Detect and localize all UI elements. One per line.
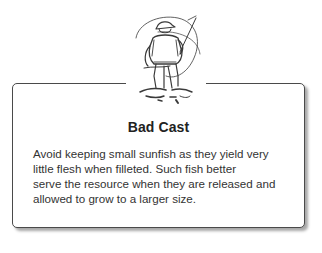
sidebar-title: Bad Cast <box>12 119 305 135</box>
body-line: serve the resource when they are release… <box>33 176 298 191</box>
fisherman-casting-icon <box>118 10 214 106</box>
sidebar-body: Avoid keeping small sunfish as they yiel… <box>33 146 298 206</box>
body-line: little flesh when filleted. Such fish be… <box>33 161 298 176</box>
body-line: allowed to grow to a larger size. <box>33 191 298 206</box>
body-line: Avoid keeping small sunfish as they yiel… <box>33 146 298 161</box>
